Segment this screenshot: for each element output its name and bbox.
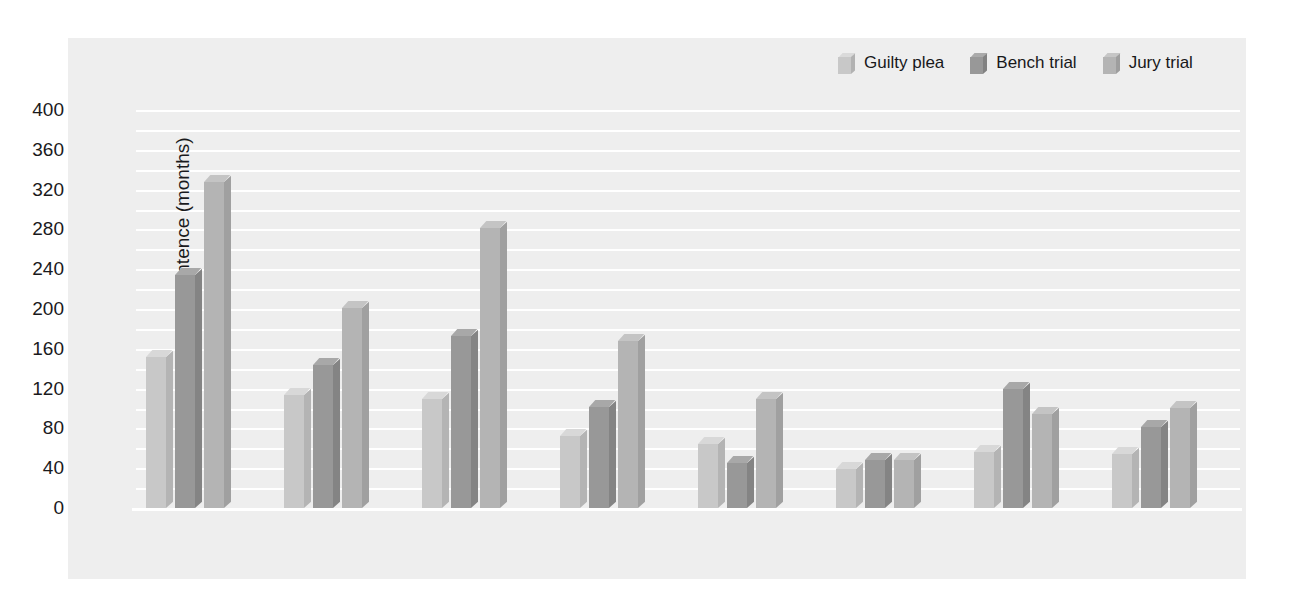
bar: [589, 407, 609, 508]
bar: [342, 308, 362, 508]
bar-group: [560, 110, 698, 508]
bar: [480, 228, 500, 508]
y-tick-label: 120: [4, 378, 64, 400]
bar: [836, 469, 856, 508]
y-tick-label: 0: [4, 497, 64, 519]
y-tick-label: 80: [4, 417, 64, 439]
legend-swatch-icon: [970, 53, 987, 74]
bar: [698, 444, 718, 508]
legend-item-guilty-plea: Guilty plea: [838, 53, 944, 74]
y-tick-label: 320: [4, 179, 64, 201]
bar: [1112, 454, 1132, 508]
y-tick-label: 160: [4, 338, 64, 360]
bar: [560, 436, 580, 508]
y-tick-label: 400: [4, 99, 64, 121]
y-tick-label: 280: [4, 218, 64, 240]
bar-group: [1112, 110, 1250, 508]
bar: [618, 341, 638, 508]
legend-item-jury-trial: Jury trial: [1103, 53, 1193, 74]
axis-baseline: [132, 508, 1242, 511]
bar: [146, 357, 166, 508]
y-tick-label: 200: [4, 298, 64, 320]
bar: [1003, 389, 1023, 508]
bar-group: [422, 110, 560, 508]
bar-group: [284, 110, 422, 508]
bar-chart-figure: Guilty pleaBench trialJury trial 0408012…: [0, 0, 1306, 615]
bar: [974, 452, 994, 508]
bar: [204, 182, 224, 508]
bar: [422, 399, 442, 508]
legend-swatch-icon: [838, 53, 855, 74]
bar: [756, 399, 776, 508]
bar-group: [836, 110, 974, 508]
bar: [1141, 427, 1161, 508]
bar: [894, 460, 914, 508]
bar-group: [974, 110, 1112, 508]
y-tick-label: 40: [4, 457, 64, 479]
bar: [1170, 408, 1190, 508]
chart-legend: Guilty pleaBench trialJury trial: [838, 48, 1193, 78]
y-tick-label: 360: [4, 139, 64, 161]
bar: [1032, 414, 1052, 508]
plot-area: 04080120160200240280320360400 Mean priso…: [136, 110, 1240, 508]
legend-label: Bench trial: [996, 53, 1076, 73]
bar: [284, 395, 304, 508]
y-tick-label: 240: [4, 258, 64, 280]
legend-item-bench-trial: Bench trial: [970, 53, 1076, 74]
bar: [865, 460, 885, 508]
legend-swatch-icon: [1103, 53, 1120, 74]
bar-group: [146, 110, 284, 508]
legend-label: Guilty plea: [864, 53, 944, 73]
legend-label: Jury trial: [1129, 53, 1193, 73]
bar: [451, 336, 471, 508]
bar-group: [698, 110, 836, 508]
bar: [313, 365, 333, 508]
bar: [727, 463, 747, 508]
bar: [175, 275, 195, 508]
